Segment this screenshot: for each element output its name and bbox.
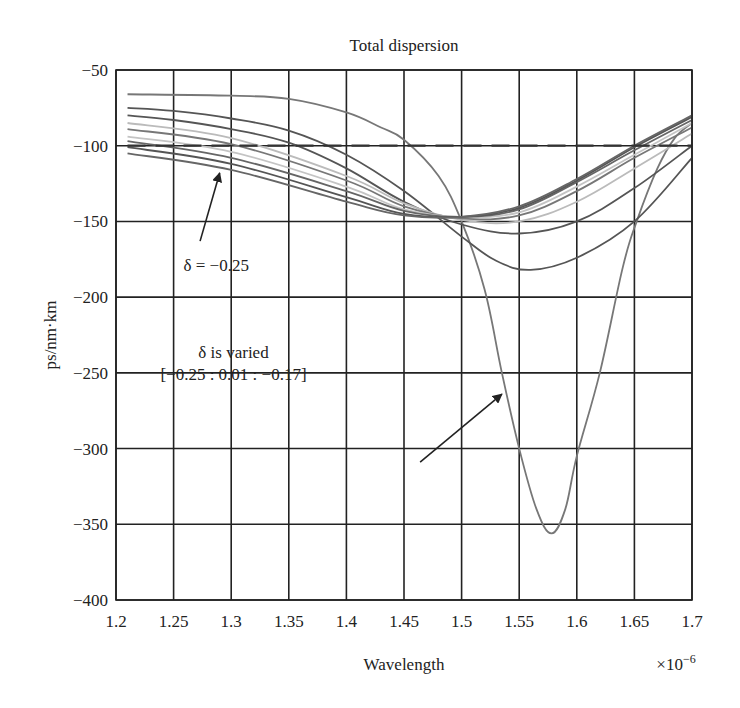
y-tick-label: −400 (73, 591, 108, 610)
y-tick-label: −250 (73, 364, 108, 383)
y-tick-label: −100 (73, 137, 108, 156)
x-tick-label: 1.45 (389, 612, 419, 631)
x-axis-multiplier: ×10−6 (656, 652, 695, 674)
chart-title: Total dispersion (350, 36, 459, 55)
x-tick-label: 1.35 (274, 612, 304, 631)
y-axis-label: ps/nm·km (41, 301, 60, 370)
delta-varied-label-line-2: [−0.25 : 0.01 : −0.17] (160, 365, 306, 384)
x-tick-label: 1.6 (566, 612, 587, 631)
y-tick-label: −150 (73, 212, 108, 231)
series-curve-9 (128, 115, 692, 217)
x-tick-label: 1.25 (159, 612, 189, 631)
series-curve-8 (128, 117, 692, 217)
x-tick-label: 1.5 (451, 612, 472, 631)
delta-label: δ = −0.25 (184, 256, 249, 275)
x-tick-label: 1.2 (105, 612, 126, 631)
x-tick-label: 1.65 (620, 612, 650, 631)
dispersion-chart: Total dispersion 1.21.251.31.351.41.451.… (0, 0, 740, 708)
x-tick-label: 1.55 (504, 612, 534, 631)
x-axis-label: Wavelength (364, 655, 445, 674)
x-axis-ticks: 1.21.251.31.351.41.451.51.551.61.651.7 (105, 612, 703, 631)
delta-varied-label: δ is varied (198, 343, 269, 362)
y-tick-label: −50 (81, 61, 108, 80)
x-axis-multiplier-exponent: −6 (683, 652, 696, 666)
series-curve-2 (128, 108, 692, 270)
series-curve-6 (128, 123, 692, 217)
x-tick-label: 1.4 (336, 612, 358, 631)
y-tick-label: −200 (73, 288, 108, 307)
x-tick-label: 1.7 (681, 612, 703, 631)
y-tick-label: −300 (73, 440, 108, 459)
x-tick-label: 1.3 (221, 612, 242, 631)
grid (116, 70, 692, 600)
delta-label-arrow (200, 173, 220, 241)
y-tick-label: −350 (73, 515, 108, 534)
y-axis-ticks: −50−100−150−200−250−300−350−400 (73, 61, 108, 610)
series-group (128, 94, 692, 533)
